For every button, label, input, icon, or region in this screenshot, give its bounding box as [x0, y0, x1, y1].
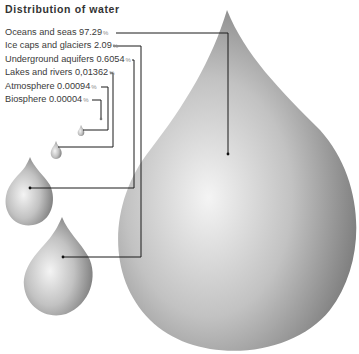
label-lakes: Lakes and rivers 0,01362% — [5, 67, 115, 77]
drop-lakes — [51, 141, 62, 159]
label-underground: Underground aquifers 0.6054% — [5, 54, 131, 64]
label-ice-caps: Ice caps and glaciers 2.09% — [5, 40, 118, 50]
diagram-title: Distribution of water — [5, 3, 120, 15]
drop-biosphere — [100, 118, 103, 121]
label-biosphere: Biosphere 0.00004% — [5, 94, 89, 104]
label-oceans: Oceans and seas 97.29% — [5, 27, 108, 37]
drop-underground — [6, 157, 53, 225]
leader-biosphere — [92, 100, 101, 118]
drop-ice-caps — [24, 217, 93, 315]
label-atmosphere: Atmosphere 0.00094% — [5, 81, 97, 91]
drop-oceans — [118, 10, 356, 351]
leader-underground — [30, 60, 134, 188]
